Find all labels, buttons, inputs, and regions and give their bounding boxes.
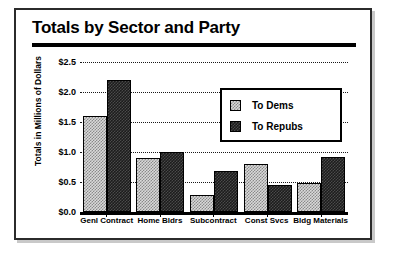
legend-label-dems: To Dems — [252, 100, 294, 111]
x-axis-tick-labels: Genl ContractHome BldrsSubcontractConst … — [80, 216, 348, 225]
bar-group — [134, 62, 188, 212]
y-tick-label: $0.5 — [58, 177, 76, 187]
x-tick-label: Genl Contract — [80, 216, 133, 225]
x-tick-label: Subcontract — [187, 216, 240, 225]
legend-swatch-repubs-icon — [230, 121, 241, 132]
x-tick-label: Bldg Materials — [293, 216, 348, 225]
bar-repubs[interactable] — [160, 152, 184, 212]
bar-dems[interactable] — [83, 116, 107, 212]
bar-repubs[interactable] — [214, 171, 238, 212]
y-tick-label: $1.5 — [58, 117, 76, 127]
chart-card: Totals by Sector and Party Totals in Mil… — [14, 8, 372, 240]
y-tick-label: $1.0 — [58, 147, 76, 157]
chart-legend: To Dems To Repubs — [220, 88, 342, 142]
y-tick-label: $0.0 — [58, 207, 76, 217]
bar-repubs[interactable] — [107, 80, 131, 212]
legend-swatch-dems-icon — [230, 100, 241, 111]
y-tick-label: $2.5 — [58, 57, 76, 67]
legend-item-repubs: To Repubs — [230, 116, 340, 137]
bar-group — [80, 62, 134, 212]
x-axis-line — [80, 212, 348, 215]
x-tick-label: Home Bldrs — [133, 216, 186, 225]
bar-dems[interactable] — [244, 164, 268, 212]
y-tick-label: $2.0 — [58, 87, 76, 97]
bar-repubs[interactable] — [321, 157, 345, 212]
legend-label-repubs: To Repubs — [252, 121, 303, 132]
x-tick-label: Const Svcs — [240, 216, 293, 225]
bar-dems[interactable] — [136, 158, 160, 212]
bar-dems[interactable] — [190, 195, 214, 212]
y-axis-tick-labels: $2.5 $2.0 $1.5 $1.0 $0.5 $0.0 — [38, 62, 76, 212]
plot-wrapper: Totals in Millions of Dollars $2.5 $2.0 … — [16, 10, 370, 238]
bar-repubs[interactable] — [268, 185, 292, 212]
legend-item-dems: To Dems — [230, 95, 340, 116]
bar-dems[interactable] — [297, 183, 321, 212]
